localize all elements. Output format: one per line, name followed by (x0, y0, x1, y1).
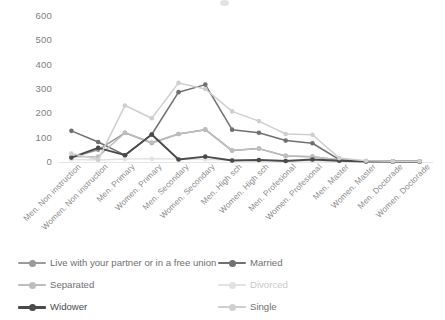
legend-swatch-icon (18, 302, 46, 312)
data-point (69, 151, 74, 156)
data-point (283, 154, 288, 159)
y-axis-tick: 200 (36, 108, 52, 118)
data-point (69, 155, 74, 160)
data-point (257, 119, 262, 124)
data-point (149, 157, 154, 162)
data-point (176, 157, 181, 162)
data-point (283, 138, 288, 143)
y-axis-tick: 100 (36, 133, 52, 143)
y-axis: 0100200300400500600 (0, 10, 56, 168)
legend-item[interactable]: Single (218, 300, 277, 314)
data-point (257, 146, 262, 151)
x-axis-tick-text: Women. Doctorade (375, 163, 432, 220)
y-axis-tick: 500 (36, 35, 52, 45)
x-axis-tick-label: Women. Doctorade (375, 163, 432, 220)
data-point (123, 131, 128, 136)
title-marker-icon (220, 0, 229, 6)
x-axis: Men. Non instructionWomen. Non instructi… (58, 163, 445, 253)
data-point (230, 127, 235, 132)
data-point (310, 141, 315, 146)
legend-swatch-icon (218, 280, 246, 290)
legend-swatch-icon (18, 280, 46, 290)
legend-label: Married (250, 257, 283, 269)
legend-item[interactable]: Separated (18, 278, 94, 292)
data-point (149, 132, 154, 137)
y-axis-tick: 400 (36, 60, 52, 70)
data-point (203, 127, 208, 132)
series-lines (58, 16, 433, 162)
legend-label: Separated (50, 279, 94, 291)
data-point (203, 154, 208, 159)
data-point (149, 140, 154, 145)
data-point (176, 81, 181, 86)
data-point (310, 157, 315, 162)
data-point (96, 157, 101, 162)
data-point (337, 156, 342, 161)
series-1 (69, 127, 422, 163)
legend-swatch-icon (218, 258, 246, 268)
y-axis-tick: 300 (36, 84, 52, 94)
data-point (176, 132, 181, 137)
data-point (283, 132, 288, 137)
legend-item[interactable]: Live with your partner or in a free unio… (18, 256, 216, 270)
data-point (96, 140, 101, 145)
chart-legend: Live with your partner or in a free unio… (18, 256, 433, 318)
data-point (69, 129, 74, 134)
data-point (149, 116, 154, 121)
data-point (230, 148, 235, 153)
legend-label: Single (250, 301, 277, 313)
data-point (203, 87, 208, 92)
data-point (203, 82, 208, 87)
legend-label: Widower (50, 301, 87, 313)
data-point (123, 153, 128, 158)
plot-area (58, 16, 433, 162)
data-point (310, 132, 315, 137)
data-point (230, 109, 235, 114)
series-2 (69, 82, 422, 163)
legend-swatch-icon (18, 258, 46, 268)
legend-item[interactable]: Widower (18, 300, 87, 314)
data-point (123, 103, 128, 108)
chart-title-ghost (180, 0, 260, 10)
data-point (176, 90, 181, 95)
y-axis-tick: 0 (47, 157, 52, 167)
legend-label: Divorced (250, 279, 288, 291)
y-axis-tick: 600 (36, 11, 52, 21)
series-6 (69, 81, 422, 164)
legend-swatch-icon (218, 302, 246, 312)
legend-item[interactable]: Married (218, 256, 283, 270)
data-point (257, 158, 262, 163)
legend-item[interactable]: Divorced (218, 278, 288, 292)
data-point (257, 131, 262, 136)
chart-container: 0100200300400500600 Men. Non instruction… (0, 0, 445, 320)
data-point (96, 146, 101, 151)
series-3 (69, 127, 422, 163)
legend-label: Live with your partner or in a free unio… (50, 257, 216, 269)
